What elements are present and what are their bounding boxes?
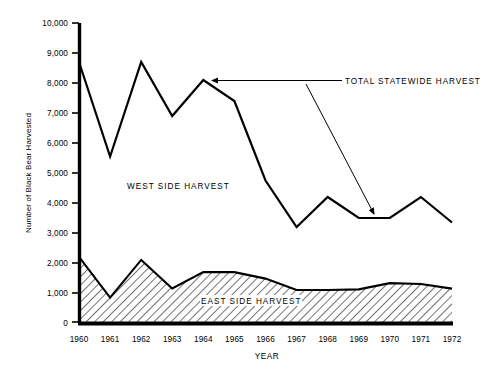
x-tick-label: 1966 xyxy=(256,335,275,344)
y-tick-label: 8,000 xyxy=(47,79,68,88)
x-tick-label: 1963 xyxy=(163,335,182,344)
y-tick-label: 2,000 xyxy=(47,259,68,268)
y-tick-label: 5,000 xyxy=(47,169,68,178)
x-tick-label: 1968 xyxy=(318,335,337,344)
y-tick-label: 1,000 xyxy=(47,289,68,298)
y-tick-label: 9,000 xyxy=(47,49,68,58)
chart-container: 10,000 9,000 8,000 7,000 6,000 5,000 4,0… xyxy=(0,0,484,379)
y-tick-label: 6,000 xyxy=(47,139,68,148)
black-bear-harvest-chart: 10,000 9,000 8,000 7,000 6,000 5,000 4,0… xyxy=(0,0,484,379)
x-tick-label: 1962 xyxy=(132,335,151,344)
x-axis-title: YEAR xyxy=(255,352,280,361)
east-side-harvest-label: EAST SIDE HARVEST xyxy=(201,297,301,306)
x-tick-label: 1967 xyxy=(287,335,306,344)
x-tick-label: 1971 xyxy=(412,335,431,344)
y-tick-label: 7,000 xyxy=(47,109,68,118)
x-tick-label: 1964 xyxy=(194,335,213,344)
x-tick-label: 1965 xyxy=(225,335,244,344)
x-tick-label: 1969 xyxy=(349,335,368,344)
y-tick-label: 4,000 xyxy=(47,199,68,208)
y-axis-title: Number of Black Bear Harvested xyxy=(24,113,33,233)
x-tick-label: 1972 xyxy=(443,335,462,344)
y-tick-label: 0 xyxy=(63,319,68,328)
west-side-harvest-label: WEST SIDE HARVEST xyxy=(127,182,230,191)
x-tick-label: 1970 xyxy=(380,335,399,344)
x-tick-label: 1961 xyxy=(101,335,120,344)
y-tick-label: 3,000 xyxy=(47,229,68,238)
total-statewide-harvest-label: TOTAL STATEWIDE HARVEST xyxy=(345,77,481,86)
y-tick-label: 10,000 xyxy=(42,19,68,28)
x-tick-label: 1960 xyxy=(70,335,89,344)
east-side-harvest-label-group: EAST SIDE HARVEST xyxy=(200,295,302,306)
